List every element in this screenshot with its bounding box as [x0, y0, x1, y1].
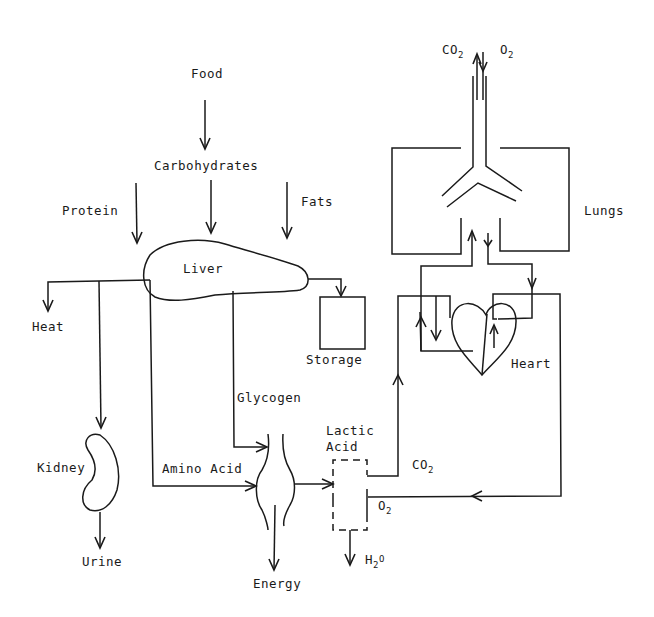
label-storage: Storage [306, 354, 362, 367]
label-lactic-acid-line1: Lactic [326, 425, 374, 438]
heart-septum [482, 314, 487, 375]
arrow-carbohydrates-to-liver [206, 180, 216, 233]
arrow-liver-to-muscle-amino-acid [150, 280, 256, 491]
label-food: Food [191, 68, 223, 81]
arrow-co2-out [473, 54, 481, 100]
label-lungs: Lungs [584, 205, 624, 218]
arrow-kidney-to-urine [95, 512, 105, 548]
label-kidney: Kidney [37, 462, 85, 475]
label-glycogen: Glycogen [237, 392, 301, 405]
label-fats: Fats [301, 196, 333, 209]
arrow-liver-to-muscle-glycogen [233, 291, 267, 452]
label-co2-muscle: CO2 [412, 459, 434, 472]
heart-shape [452, 304, 516, 375]
label-liver: Liver [183, 263, 223, 276]
lactic-acid-box [333, 460, 367, 530]
label-heat: Heat [32, 321, 64, 334]
label-o2-muscle: O2 [378, 500, 392, 513]
label-co2-lungs: CO2 [442, 44, 464, 57]
arrow-heart-to-lungs [416, 231, 476, 351]
label-energy: Energy [253, 578, 301, 591]
arrow-liver-to-heat [43, 280, 150, 311]
storage-box [320, 297, 365, 349]
label-urine: Urine [82, 556, 122, 569]
arrow-food-to-carbohydrates [200, 100, 210, 149]
arrow-liver-to-storage [308, 279, 346, 296]
metabolism-diagram [0, 0, 654, 617]
left-lung-box [392, 148, 461, 254]
kidney-shape [83, 434, 119, 510]
label-lactic-acid-line2: Acid [326, 441, 358, 454]
label-amino-acid: Amino Acid [162, 463, 242, 476]
right-lung-box [500, 148, 569, 251]
arrow-heart-o2-to-lactic-acid [368, 294, 561, 501]
arrow-muscle-to-energy [269, 505, 279, 570]
trachea [442, 76, 522, 207]
liver-shape [144, 240, 308, 300]
label-water: H2O [365, 554, 385, 567]
label-heart: Heart [511, 358, 551, 371]
label-o2-lungs: O2 [500, 44, 514, 57]
arrow-fats-to-liver [282, 182, 292, 238]
label-protein: Protein [62, 205, 118, 218]
arrow-co2-to-heart [367, 296, 450, 476]
arrow-protein-to-liver [132, 183, 142, 243]
arrow-liver-to-kidney [96, 281, 106, 428]
arrow-lactic-acid-to-water [345, 530, 355, 565]
arrow-muscle-to-lactic-acid [295, 479, 333, 489]
label-carbohydrates: Carbohydrates [154, 160, 258, 173]
